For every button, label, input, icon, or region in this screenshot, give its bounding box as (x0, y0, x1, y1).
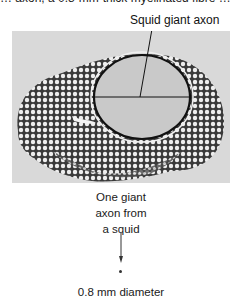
diameter-label: 0.8 mm diameter (0, 284, 242, 300)
axon-micrograph (12, 31, 230, 183)
scale-dot-icon (119, 270, 122, 273)
down-arrow-icon (119, 233, 123, 263)
axon-label: Squid giant axon (130, 13, 219, 27)
caption-line-2: axon from (0, 205, 242, 221)
caption-line-1: One giant (0, 189, 242, 205)
caption-one-giant-axon: One giant axon from a squid (0, 189, 242, 237)
clipped-heading-text: … axon, a 0.8-mm-thick myelinated fibre … (0, 0, 242, 5)
